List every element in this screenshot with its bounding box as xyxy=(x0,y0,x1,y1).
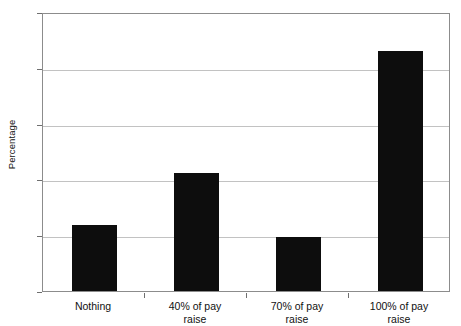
x-tick-mark xyxy=(144,293,145,298)
y-tick-mark xyxy=(37,236,42,237)
bar-series xyxy=(43,14,449,291)
bar-chart: 01020304050 Percentage Nothing40% of pay… xyxy=(0,0,461,326)
x-tick-label-line: 100% of pay xyxy=(370,300,428,312)
bar xyxy=(276,237,321,291)
x-tick-label-line: 70% of pay xyxy=(271,300,324,312)
x-tick-mark xyxy=(348,293,349,298)
x-tick-mark xyxy=(246,293,247,298)
x-tick-label: 100% of payraise xyxy=(339,300,459,325)
y-tick-mark xyxy=(37,125,42,126)
y-axis-title: Percentage xyxy=(6,85,17,205)
bar xyxy=(378,51,423,291)
y-tick-mark xyxy=(37,69,42,70)
y-tick-mark xyxy=(37,292,42,293)
bar xyxy=(72,225,117,291)
bar xyxy=(174,173,219,291)
y-tick-mark xyxy=(37,180,42,181)
y-tick-mark xyxy=(37,13,42,14)
x-tick-label-line: 40% of pay xyxy=(169,300,222,312)
x-tick-label-line: Nothing xyxy=(75,300,111,312)
plot-area xyxy=(42,13,450,292)
x-tick-label-line: raise xyxy=(339,313,459,326)
